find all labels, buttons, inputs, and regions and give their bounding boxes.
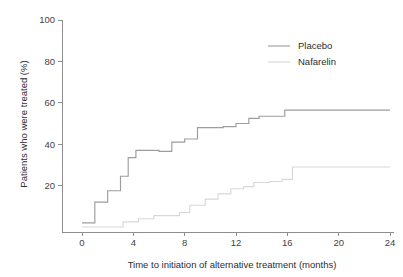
y-tick-label: 80 <box>44 56 55 67</box>
x-tick-label: 12 <box>231 237 242 248</box>
y-tick-label: 20 <box>44 180 55 191</box>
y-axis-title: Patients who were treated (%) <box>18 60 29 187</box>
x-tick-label: 16 <box>282 237 293 248</box>
y-tick-label: 100 <box>39 14 55 25</box>
legend-label-nafarelin: Nafarelin <box>298 56 336 67</box>
y-tick-label: 60 <box>44 97 55 108</box>
x-tick-label: 4 <box>131 237 136 248</box>
y-tick-label: 40 <box>44 139 55 150</box>
chart-background <box>0 0 403 277</box>
step-chart: 20406080100 04812162024 PlaceboNafarelin… <box>0 0 403 277</box>
legend-label-placebo: Placebo <box>298 40 332 51</box>
x-tick-label: 20 <box>333 237 344 248</box>
x-tick-label: 24 <box>385 237 396 248</box>
x-tick-label: 0 <box>79 237 84 248</box>
chart-container: 20406080100 04812162024 PlaceboNafarelin… <box>0 0 403 277</box>
x-tick-label: 8 <box>182 237 187 248</box>
x-axis-title: Time to initiation of alternative treatm… <box>128 259 337 270</box>
